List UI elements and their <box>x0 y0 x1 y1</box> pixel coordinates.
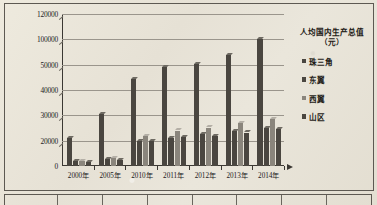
bar-top-face <box>143 134 150 136</box>
bar-top-face <box>276 127 283 129</box>
bar <box>162 67 167 166</box>
bar-top-face <box>149 139 156 141</box>
y-axis-label: 20000 <box>41 136 58 145</box>
legend-color-swatch <box>302 59 306 63</box>
y-axis-label: 30000 <box>41 111 58 120</box>
x-axis-tick-mark <box>94 166 95 170</box>
x-axis-label: 2014年 <box>258 170 279 180</box>
bar-group <box>99 14 123 166</box>
x-axis-tick-mark <box>252 166 253 170</box>
legend-items: 珠三角东翼西翼山区 <box>288 56 376 123</box>
bar-top-face <box>206 125 213 127</box>
y-axis-label: 40000 <box>41 86 58 95</box>
bar <box>79 161 84 166</box>
bar-top-face <box>99 112 106 114</box>
plot-area <box>62 14 284 166</box>
legend-item: 东翼 <box>302 74 376 85</box>
legend-color-swatch <box>302 114 306 118</box>
bar-top-face <box>131 77 138 79</box>
y-axis-label: 120000 <box>37 10 58 19</box>
bar-top-face <box>86 160 93 162</box>
bar <box>212 136 217 166</box>
x-axis-tick-mark <box>125 166 126 170</box>
x-axis-tick-mark <box>189 166 190 170</box>
bar-top-face <box>67 136 74 138</box>
bar <box>175 131 180 166</box>
bar <box>86 162 91 166</box>
legend-title-line-1: 人均国内生产总值 <box>288 28 376 38</box>
bar-top-face <box>175 128 182 130</box>
legend-label: 山区 <box>309 111 325 122</box>
bar <box>137 141 142 166</box>
bar <box>257 39 262 166</box>
legend-label: 珠三角 <box>309 56 333 67</box>
x-axis-label: 2012年 <box>195 170 216 180</box>
legend-title-line-2: （元） <box>288 38 376 48</box>
bar-group <box>194 14 218 166</box>
y-axis-label: 0 <box>55 162 59 171</box>
bar-chart: 020000300004000050000100000120000 2000年2… <box>0 0 377 190</box>
x-axis-label: 2005年 <box>100 170 121 180</box>
bar <box>232 131 237 166</box>
legend-item: 山区 <box>302 111 376 122</box>
bar-top-face <box>257 37 264 39</box>
legend-color-swatch <box>302 77 306 81</box>
x-axis-label: 2010年 <box>131 170 152 180</box>
bar <box>99 114 104 166</box>
legend-color-swatch <box>302 96 306 100</box>
chart-legend: 人均国内生产总值 （元） 珠三角东翼西翼山区 <box>288 28 376 130</box>
bar-group <box>162 14 186 166</box>
x-axis-tick-mark <box>157 166 158 170</box>
bar <box>105 159 110 166</box>
table-cell <box>148 195 193 205</box>
y-axis-label: 50000 <box>41 60 58 69</box>
legend-item: 西翼 <box>302 93 376 104</box>
table-cell <box>237 195 282 205</box>
table-cell <box>5 195 58 205</box>
bar-group <box>131 14 155 166</box>
bar <box>206 128 211 167</box>
table-strip-below-chart <box>4 194 372 205</box>
table-cell <box>282 195 327 205</box>
bar-top-face <box>238 121 245 123</box>
bar <box>238 123 243 166</box>
x-axis-label: 2000年 <box>68 170 89 180</box>
bar-top-face <box>162 65 169 67</box>
bar-series-container <box>62 14 284 166</box>
bar <box>226 55 231 166</box>
bar <box>143 136 148 166</box>
bar <box>276 129 281 166</box>
x-axis-tick-mark <box>221 166 222 170</box>
bar-group <box>257 14 281 166</box>
bar <box>200 134 205 166</box>
bar-top-face <box>181 135 188 137</box>
legend-label: 东翼 <box>309 74 325 85</box>
bar <box>131 79 136 166</box>
legend-title: 人均国内生产总值 （元） <box>288 28 376 49</box>
bar <box>244 133 249 166</box>
bar-group <box>67 14 91 166</box>
legend-label: 西翼 <box>309 93 325 104</box>
bar-group <box>226 14 250 166</box>
bar-top-face <box>226 53 233 55</box>
bar-top-face <box>212 134 219 136</box>
y-axis-tick-labels: 020000300004000050000100000120000 <box>14 0 58 190</box>
table-cell <box>58 195 103 205</box>
bar-top-face <box>270 117 277 119</box>
table-cell <box>327 195 371 205</box>
page-root: 020000300004000050000100000120000 2000年2… <box>0 0 377 205</box>
bar <box>117 160 122 166</box>
x-axis-tick-mark <box>284 166 285 170</box>
bar-top-face <box>117 158 124 160</box>
y-axis-label: 100000 <box>37 35 58 44</box>
x-axis-label: 2013年 <box>226 170 247 180</box>
bar-top-face <box>244 130 251 132</box>
table-cell <box>193 195 238 205</box>
legend-item: 珠三角 <box>302 56 376 67</box>
bar <box>270 119 275 166</box>
x-axis-arrow-icon <box>287 164 293 170</box>
bar <box>73 161 78 166</box>
bar <box>111 158 116 166</box>
x-axis-label: 2011年 <box>163 170 184 180</box>
bar <box>168 138 173 166</box>
